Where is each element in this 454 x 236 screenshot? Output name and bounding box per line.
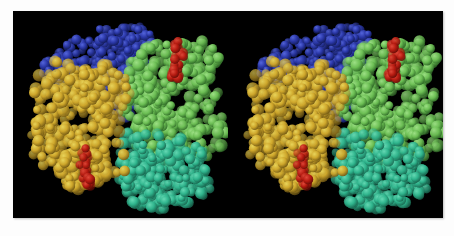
stereo-view-left-eye <box>13 11 228 218</box>
figure-root <box>0 0 454 236</box>
figure-caption <box>13 220 443 234</box>
molecule-stage-right <box>228 11 443 218</box>
molecular-image-panel <box>13 11 443 218</box>
subunit-alpha-1 <box>243 56 350 196</box>
molecule-stage-left <box>13 11 228 218</box>
stereo-view-right-eye <box>228 11 443 218</box>
